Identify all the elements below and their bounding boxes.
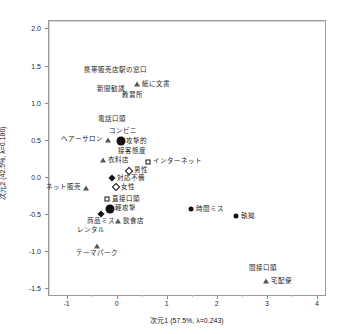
- x-tick-minor: [92, 295, 93, 297]
- y-tick-label: -0.5: [29, 210, 41, 217]
- plot-area: -101234 2.01.51.00.50.0-0.5-1.0-1.5 携帯販売…: [48, 20, 326, 296]
- x-tick-minor: [142, 295, 143, 297]
- data-point-label: 飲食店: [123, 218, 144, 225]
- data-point-label: コンビニ: [109, 128, 137, 135]
- y-tick: [45, 214, 49, 215]
- data-point-label: 宅配便: [271, 278, 292, 285]
- data-point-marker: [233, 214, 238, 219]
- data-point-marker: [188, 207, 193, 212]
- data-point-marker: [145, 159, 150, 164]
- y-tick: [45, 140, 49, 141]
- data-point-label: 電話口頭: [98, 116, 126, 123]
- y-axis-title: 次元2 (42.5%, λ=0.180): [0, 126, 7, 199]
- x-tick: [317, 295, 318, 299]
- data-point-marker: [100, 158, 106, 163]
- data-point-marker: [134, 82, 140, 87]
- data-point-label: インターネット: [153, 158, 202, 165]
- data-point-label: 執拗: [241, 213, 255, 220]
- x-tick-label: 1: [165, 300, 169, 307]
- data-point-label: 衣料店: [108, 157, 129, 164]
- data-point-label: 軽攻撃: [115, 205, 136, 212]
- data-point-label: レンタル: [77, 227, 105, 234]
- y-tick-label: 1.5: [31, 62, 41, 69]
- data-point-marker: [111, 183, 119, 191]
- x-tick-minor: [242, 295, 243, 297]
- data-point-label: 新聞勧誘: [97, 86, 125, 93]
- x-tick-minor: [192, 295, 193, 297]
- data-point-marker: [116, 137, 125, 146]
- data-point-label: 商品ミス: [87, 218, 115, 225]
- data-point-marker: [104, 197, 109, 202]
- data-point-marker: [108, 175, 115, 182]
- x-tick: [267, 295, 268, 299]
- data-point-label: 教習所: [122, 92, 143, 99]
- x-tick-label: 4: [315, 300, 319, 307]
- y-tick-label: 1.0: [31, 99, 41, 106]
- data-point-label: ネット販売: [46, 184, 81, 191]
- correspondence-analysis-biplot: -101234 2.01.51.00.50.0-0.5-1.0-1.5 携帯販売…: [0, 0, 342, 334]
- x-tick-label: -1: [63, 300, 69, 307]
- data-point-label: 男性: [134, 167, 148, 174]
- data-point-label: 攻撃的: [126, 138, 147, 145]
- data-point-marker: [83, 185, 89, 190]
- x-tick: [217, 295, 218, 299]
- y-tick-label: 0.5: [31, 136, 41, 143]
- data-point-label: 対応不備: [117, 175, 145, 182]
- x-tick-label: 3: [265, 300, 269, 307]
- data-point-marker: [263, 279, 269, 284]
- data-point-marker: [105, 137, 111, 142]
- data-point-label: ヘアーサロン: [61, 136, 103, 143]
- data-point-marker: [94, 243, 100, 248]
- y-tick: [45, 66, 49, 67]
- data-point-label: 紙に文書: [142, 81, 170, 88]
- x-tick: [167, 295, 168, 299]
- data-point-label: 接客態度: [118, 148, 146, 155]
- data-point-label: 時間ミス: [196, 206, 224, 213]
- x-tick-label: 0: [115, 300, 119, 307]
- reference-line-x0: [49, 21, 50, 295]
- x-tick-label: 2: [215, 300, 219, 307]
- data-point-label: 携帯販売店: [84, 67, 119, 74]
- x-axis-title: 次元1 (57.5%, λ=0.243): [48, 315, 326, 325]
- y-tick: [45, 288, 49, 289]
- x-tick: [67, 295, 68, 299]
- y-tick: [45, 103, 49, 104]
- x-tick: [117, 295, 118, 299]
- data-point-label: 駅の窓口: [119, 67, 147, 74]
- x-tick-minor: [292, 295, 293, 297]
- data-point-label: 直接口頭: [112, 196, 140, 203]
- data-point-label: テーマパーク: [76, 250, 118, 257]
- reference-line-y0: [49, 21, 325, 22]
- y-tick: [45, 251, 49, 252]
- y-tick: [45, 28, 49, 29]
- y-tick-label: -1.5: [29, 285, 41, 292]
- y-tick-label: -1.0: [29, 248, 41, 255]
- data-point-marker: [105, 204, 114, 213]
- data-point-label: 間接口頭: [249, 265, 277, 272]
- y-tick-label: 2.0: [31, 25, 41, 32]
- data-point-marker: [115, 219, 121, 224]
- y-tick: [45, 177, 49, 178]
- data-point-label: 女性: [121, 184, 135, 191]
- y-tick-label: 0.0: [31, 173, 41, 180]
